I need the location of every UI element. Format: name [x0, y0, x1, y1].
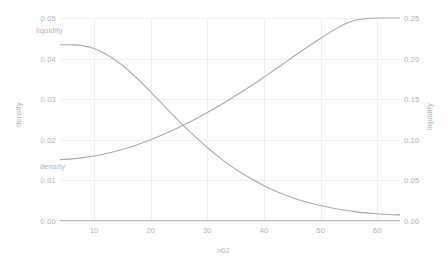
- x-axis-ticks: 102030405060: [60, 226, 400, 240]
- x-axis-tick-label: 50: [316, 226, 325, 235]
- annotation-liquidity: liquidity: [36, 26, 63, 35]
- y-axis-right-tick-label: 0.15: [404, 95, 419, 104]
- chart-container: 0.000.010.020.030.040.05 0.000.050.100.1…: [0, 0, 447, 264]
- x-axis-tick-label: 30: [203, 226, 212, 235]
- y-axis-left-title: density: [14, 85, 23, 145]
- y-axis-right-tick-label: 0.05: [404, 176, 419, 185]
- x-axis-tick-label: 20: [146, 226, 155, 235]
- y-axis-left-tick-label: 0.04: [41, 54, 56, 63]
- y-axis-left-tick-label: 0.05: [41, 14, 56, 23]
- plot-area: [60, 18, 400, 221]
- annotation-density: density: [40, 162, 65, 171]
- y-axis-right-tick-label: 0.00: [404, 217, 419, 226]
- y-axis-right-tick-label: 0.25: [404, 14, 419, 23]
- y-axis-left-tick-label: 0.01: [41, 176, 56, 185]
- y-axis-right-tick-label: 0.20: [404, 54, 419, 63]
- y-axis-right-tick-label: 0.10: [404, 135, 419, 144]
- line-liquidity: [60, 18, 400, 160]
- x-axis-title: n02: [0, 246, 447, 255]
- y-axis-right-title: liquidity: [425, 87, 434, 147]
- line-density: [60, 45, 400, 215]
- y-axis-left-ticks: 0.000.010.020.030.040.05: [20, 18, 56, 221]
- y-axis-left-tick-label: 0.02: [41, 135, 56, 144]
- series-lines: [60, 18, 400, 221]
- x-axis-tick-label: 10: [90, 226, 99, 235]
- y-axis-left-tick-label: 0.00: [41, 217, 56, 226]
- x-axis-tick-label: 60: [373, 226, 382, 235]
- y-axis-left-tick-label: 0.03: [41, 95, 56, 104]
- x-axis-tick-label: 40: [260, 226, 269, 235]
- gridline-horizontal: [60, 221, 400, 222]
